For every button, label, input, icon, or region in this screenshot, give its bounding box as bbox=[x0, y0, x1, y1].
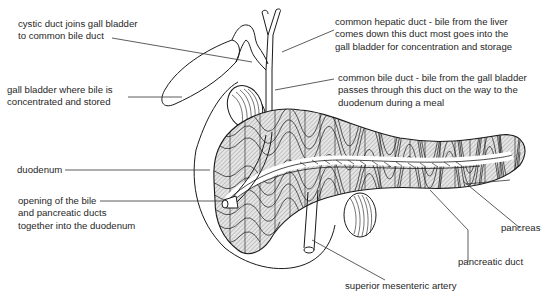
label-cystic-duct: cystic duct joins gall bladder to common… bbox=[18, 18, 137, 43]
common-hepatic-duct bbox=[262, 10, 280, 70]
label-pancreatic-duct: pancreatic duct bbox=[458, 256, 523, 268]
gall-bladder bbox=[162, 40, 240, 106]
label-common-hepatic-duct: common hepatic duct - bile from the live… bbox=[335, 16, 512, 53]
label-common-bile-duct: common bile duct - bile from the gall bl… bbox=[338, 72, 527, 109]
label-gall-bladder: gall bladder where bile is concentrated … bbox=[7, 84, 113, 109]
label-duodenum: duodenum bbox=[17, 164, 62, 176]
label-superior-mesenteric-artery: superior mesenteric artery bbox=[345, 280, 456, 292]
label-duct-opening: opening of the bile and pancreatic ducts… bbox=[18, 195, 135, 232]
label-pancreas: pancreas bbox=[501, 222, 540, 234]
